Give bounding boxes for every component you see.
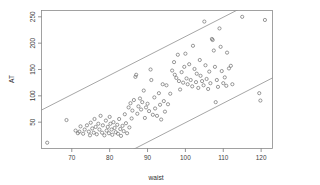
- data-point: [135, 73, 138, 76]
- data-point: [114, 131, 117, 134]
- data-point: [263, 18, 266, 21]
- data-point: [131, 109, 134, 112]
- data-point: [154, 107, 157, 110]
- data-point: [119, 127, 122, 130]
- data-point: [144, 106, 147, 109]
- data-point: [142, 89, 145, 92]
- data-point: [118, 117, 121, 120]
- data-point: [229, 64, 232, 67]
- data-point: [180, 71, 183, 74]
- data-point: [104, 119, 107, 122]
- data-point: [147, 110, 150, 113]
- data-point: [208, 70, 211, 73]
- data-point: [214, 101, 217, 104]
- x-tick-label: 120: [256, 154, 267, 161]
- data-point: [186, 83, 189, 86]
- data-point: [149, 68, 152, 71]
- data-point: [207, 87, 210, 90]
- data-point: [153, 96, 156, 99]
- data-point: [108, 115, 111, 118]
- y-tick-label: 50: [29, 118, 36, 126]
- data-point: [134, 75, 137, 78]
- data-point: [163, 110, 166, 113]
- data-point: [184, 52, 187, 55]
- data-point: [175, 76, 178, 79]
- data-point: [85, 124, 88, 127]
- data-point: [202, 84, 205, 87]
- data-point: [191, 85, 194, 88]
- plot-frame: [42, 11, 273, 149]
- data-point: [83, 128, 86, 131]
- data-point: [109, 122, 112, 125]
- data-point: [241, 15, 244, 18]
- data-point: [92, 131, 95, 134]
- data-point: [112, 121, 115, 124]
- data-point: [130, 117, 133, 120]
- x-axis-title: waist: [147, 174, 163, 181]
- data-point: [113, 126, 116, 129]
- data-point: [169, 92, 172, 95]
- data-point: [129, 102, 132, 105]
- data-point: [161, 83, 164, 86]
- data-point: [220, 69, 223, 72]
- y-tick-label: 200: [29, 37, 36, 48]
- data-point: [89, 121, 92, 124]
- data-point: [87, 130, 90, 133]
- data-point: [171, 69, 174, 72]
- plot-border: [42, 11, 273, 149]
- x-tick-label: 70: [68, 154, 76, 161]
- reference-lines: [42, 0, 273, 173]
- data-point: [200, 79, 203, 82]
- data-point: [198, 58, 201, 61]
- data-point: [101, 124, 104, 127]
- x-tick-label: 90: [144, 154, 152, 161]
- data-point: [160, 118, 163, 121]
- data-point: [197, 86, 200, 89]
- data-point: [139, 108, 142, 111]
- data-point: [98, 128, 101, 131]
- data-point: [125, 132, 128, 135]
- data-point: [158, 103, 161, 106]
- x-tick-label: 100: [180, 154, 191, 161]
- data-point: [258, 92, 261, 95]
- data-point: [97, 122, 100, 125]
- y-tick-label: 100: [29, 90, 36, 101]
- data-point: [124, 122, 127, 125]
- data-point: [122, 130, 125, 133]
- data-point: [225, 84, 228, 87]
- data-point: [110, 128, 113, 131]
- data-point: [193, 67, 196, 70]
- data-point: [123, 113, 126, 116]
- data-point: [91, 127, 94, 130]
- data-point: [79, 125, 82, 128]
- data-point: [146, 102, 149, 105]
- data-point: [215, 78, 218, 81]
- data-point: [183, 65, 186, 68]
- data-point: [225, 51, 228, 54]
- data-point: [121, 124, 124, 127]
- y-tick-label: 250: [29, 11, 36, 22]
- data-point: [141, 101, 144, 104]
- data-point: [172, 61, 175, 64]
- data-point: [106, 125, 109, 128]
- data-points: [46, 15, 267, 144]
- data-point: [219, 45, 222, 48]
- data-point: [137, 105, 140, 108]
- data-point: [82, 132, 85, 135]
- data-point: [259, 99, 262, 102]
- axis-tick-labels: 70809010011012050100150200250: [29, 11, 267, 160]
- data-point: [151, 113, 154, 116]
- data-point: [191, 44, 194, 47]
- data-point: [166, 103, 169, 106]
- x-tick-label: 80: [106, 154, 114, 161]
- data-point: [213, 65, 216, 68]
- data-point: [65, 118, 68, 121]
- data-point: [46, 141, 49, 144]
- data-point: [173, 73, 176, 76]
- data-point: [111, 133, 114, 136]
- data-point: [103, 134, 106, 137]
- data-point: [138, 97, 141, 100]
- data-point: [119, 134, 122, 137]
- data-point: [165, 84, 168, 87]
- y-tick-label: 150: [29, 64, 36, 75]
